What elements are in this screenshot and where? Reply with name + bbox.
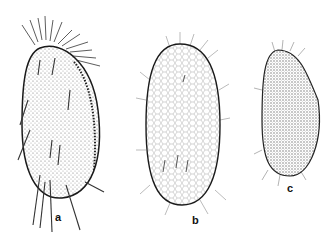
organism-b: [136, 32, 230, 215]
panel-label-a: a: [55, 212, 61, 223]
illustration: [0, 0, 336, 244]
organism-c: [254, 40, 319, 186]
figure-canvas: a b c: [0, 0, 336, 244]
organism-a: [18, 16, 104, 232]
panel-label-b: b: [192, 215, 199, 226]
panel-label-c: c: [287, 183, 293, 194]
